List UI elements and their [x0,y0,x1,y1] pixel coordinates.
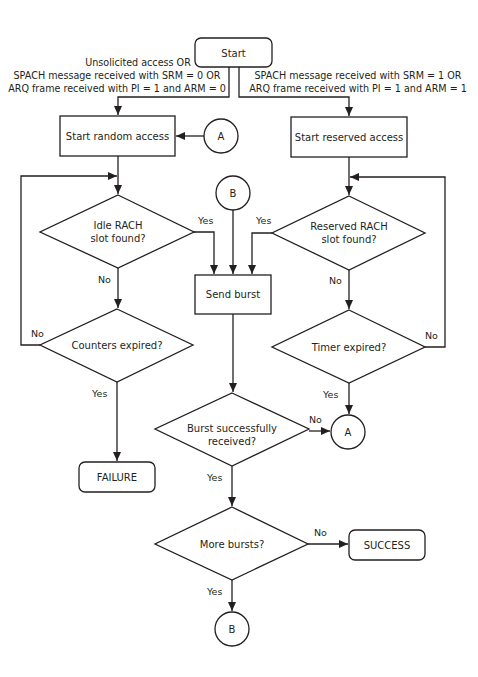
timer-expired-label: Timer expired? [311,342,386,353]
connector-b-top-label: B [230,188,237,199]
timer-no-label: No [425,330,438,341]
idle-yes-label: Yes [197,215,213,226]
reserved-condition-line2: ARQ frame received with PI = 1 and ARM =… [249,83,467,94]
random-condition-line3: ARQ frame received with PI = 1 and ARM =… [8,83,226,94]
connector-b-top: B [216,176,250,210]
start-node: Start [195,38,272,67]
burst-received-decision: Burst successfully received? [155,393,309,466]
timer-yes-label: Yes [322,389,338,400]
reserved-yes-label: Yes [255,215,271,226]
more-bursts-decision: More bursts? [155,507,308,580]
send-burst-box: Send burst [195,275,271,314]
success-node: SUCCESS [349,530,425,560]
burst-received-line2: received? [208,436,256,447]
more-bursts-label: More bursts? [200,539,264,550]
success-label: SUCCESS [364,540,411,551]
burst-yes-label: Yes [206,472,222,483]
more-no-label: No [314,527,327,538]
edge-reserved-yes [252,233,272,274]
connector-b-bottom: B [215,612,249,646]
reserved-rach-line1: Reserved RACH [310,221,387,232]
counters-expired-decision: Counters expired? [40,309,193,382]
idle-no-label: No [98,274,111,285]
more-yes-label: Yes [206,586,222,597]
connector-a-top-label: A [218,131,225,142]
start-reserved-access-box: Start reserved access [291,117,407,157]
connector-a-bottom: A [331,415,365,449]
reserved-rach-decision: Reserved RACH slot found? [272,196,425,270]
counters-no-label: No [31,328,44,339]
burst-no-label: No [309,414,322,425]
random-condition-line2: SPACH message received with SRM = 0 OR [14,70,221,81]
reserved-no-label: No [329,275,342,286]
failure-node: FAILURE [79,462,155,492]
send-burst-label: Send burst [206,289,260,300]
reserved-rach-line2: slot found? [321,234,376,245]
connector-a-top: A [204,119,238,153]
start-random-access-box: Start random access [60,116,175,156]
flowchart: Start Unsolicited access OR SPACH messag… [0,0,478,677]
edge-idle-yes [194,232,214,274]
reserved-condition-line1: SPACH message received with SRM = 1 OR [255,70,462,81]
start-random-access-label: Start random access [66,131,169,142]
start-reserved-access-label: Start reserved access [295,132,403,143]
reserved-access-condition: SPACH message received with SRM = 1 OR A… [249,70,467,94]
counters-expired-label: Counters expired? [71,340,162,351]
idle-rach-line2: slot found? [90,233,145,244]
idle-rach-decision: Idle RACH slot found? [40,195,194,268]
counters-yes-label: Yes [91,388,107,399]
timer-expired-decision: Timer expired? [272,310,425,383]
idle-rach-line1: Idle RACH [93,220,142,231]
random-condition-line1: Unsolicited access OR [85,57,191,68]
start-label: Start [221,48,246,59]
connector-a-bottom-label: A [345,427,352,438]
random-access-condition: Unsolicited access OR SPACH message rece… [8,57,226,94]
failure-label: FAILURE [97,472,137,483]
connector-b-bottom-label: B [229,624,236,635]
burst-received-line1: Burst successfully [187,423,277,434]
